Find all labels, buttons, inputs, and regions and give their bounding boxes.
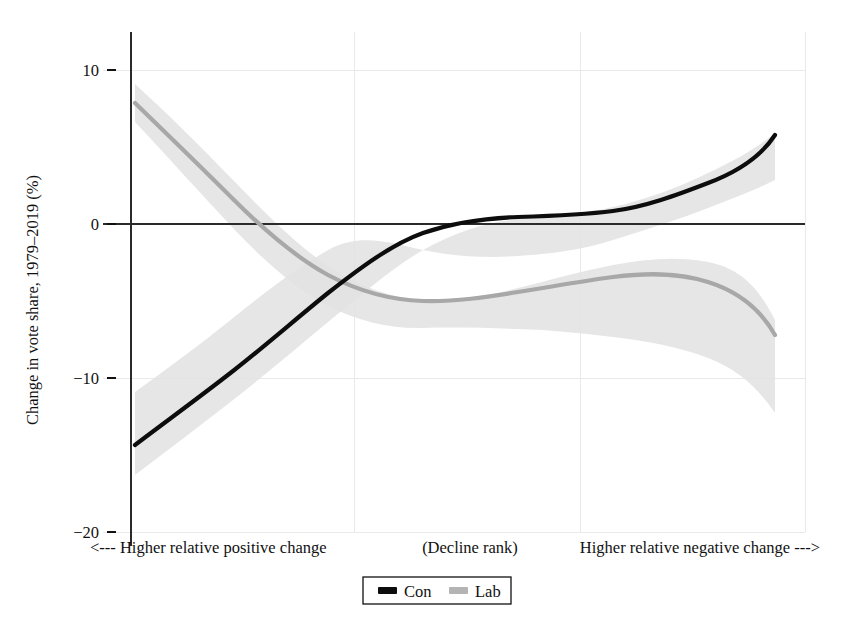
legend-swatch-lab: [449, 587, 468, 594]
y-tick-label-neg10: −10: [73, 369, 99, 388]
y-tick-labels: 10 0 −10 −20: [73, 61, 99, 542]
line-chart-svg: 10 0 −10 −20 Change in vote share, 1979–…: [0, 0, 854, 634]
x-axis-right-text: Higher relative negative change --->: [580, 538, 820, 557]
x-axis-center-text: (Decline rank): [422, 538, 518, 557]
x-axis-annotations: <--- Higher relative positive change (De…: [90, 538, 820, 557]
x-axis-left-text: <--- Higher relative positive change: [90, 538, 327, 557]
legend-swatch-con: [378, 587, 397, 594]
y-tick-marks: [107, 70, 116, 532]
y-tick-label-0: 0: [91, 215, 99, 234]
legend-label-lab: Lab: [475, 582, 501, 601]
chart-legend[interactable]: Con Lab: [363, 577, 511, 604]
legend-label-con: Con: [404, 582, 432, 601]
confidence-bands: [135, 84, 775, 475]
y-tick-label-10: 10: [83, 61, 100, 80]
y-axis-title: Change in vote share, 1979–2019 (%): [23, 175, 42, 425]
chart-figure: 10 0 −10 −20 Change in vote share, 1979–…: [0, 0, 854, 634]
